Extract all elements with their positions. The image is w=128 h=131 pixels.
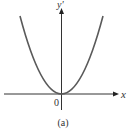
origin-label: 0 bbox=[54, 97, 59, 108]
x-axis-label: x bbox=[120, 88, 126, 100]
y-axis-label: y' bbox=[56, 0, 64, 10]
x-axis-arrow-icon bbox=[113, 92, 119, 97]
figure-caption: (a) bbox=[57, 117, 68, 129]
graph-figure: x y' 0 (a) bbox=[0, 0, 128, 131]
